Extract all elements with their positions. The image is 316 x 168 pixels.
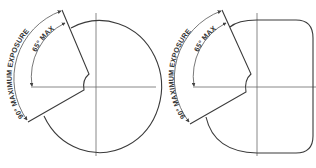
ninety-degree-label: 90° MAXIMUM EXPOSURE — [5, 27, 31, 121]
rounded-rect-body-outline — [206, 20, 313, 153]
sixty-five-degree-label: 65° MAX — [30, 24, 56, 53]
sixty-five-degree-label: 65° MAX — [192, 24, 218, 53]
rounded-rect-exposure-diagram: 90° MAXIMUM EXPOSURE 65° MAX — [167, 10, 316, 156]
ninety-degree-label: 90° MAXIMUM EXPOSURE — [167, 27, 193, 121]
exposure-diagrams: 90° MAXIMUM EXPOSURE 65° MAX 90° MAXIMUM… — [0, 0, 316, 168]
circular-exposure-diagram: 90° MAXIMUM EXPOSURE 65° MAX — [5, 10, 162, 156]
ninety-degree-arc — [14, 11, 61, 120]
exposure-sector-outline — [190, 10, 251, 124]
